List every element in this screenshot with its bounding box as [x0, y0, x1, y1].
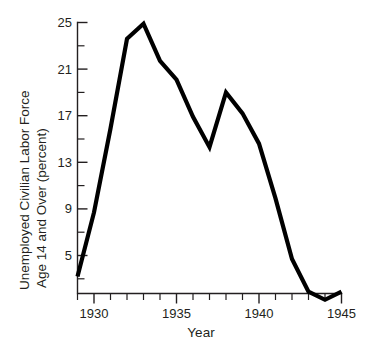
y-axis-title-line1: Unemployed Civilian Labor Force: [17, 90, 32, 290]
axis-spines: [78, 23, 342, 294]
y-tick-label-17: 17: [58, 108, 72, 123]
x-axis-ticks: [78, 294, 342, 304]
x-tick-label-1935: 1935: [162, 306, 191, 321]
y-tick-label-5: 5: [65, 248, 72, 263]
y-axis-title: Unemployed Civilian Labor Force Age 14 a…: [17, 90, 49, 290]
y-tick-label-13: 13: [58, 155, 72, 170]
chart-figure: Unemployed Civilian Labor Force Age 14 a…: [0, 0, 378, 346]
y-tick-label-21: 21: [58, 62, 72, 77]
y-tick-label-25: 25: [58, 15, 72, 30]
x-axis-tick-labels: 1930 1935 1940 1945: [80, 306, 356, 321]
y-tick-label-9: 9: [65, 201, 72, 216]
unemployment-series-line: [78, 24, 342, 300]
x-tick-label-1945: 1945: [327, 306, 356, 321]
x-tick-label-1940: 1940: [245, 306, 274, 321]
unemployment-line-chart: Unemployed Civilian Labor Force Age 14 a…: [0, 0, 378, 346]
y-axis-title-line2: Age 14 and Over (percent): [34, 128, 49, 288]
x-axis-title: Year: [187, 325, 215, 340]
y-axis-tick-labels: 25 21 17 13 9 5: [58, 15, 72, 263]
x-tick-label-1930: 1930: [80, 306, 109, 321]
